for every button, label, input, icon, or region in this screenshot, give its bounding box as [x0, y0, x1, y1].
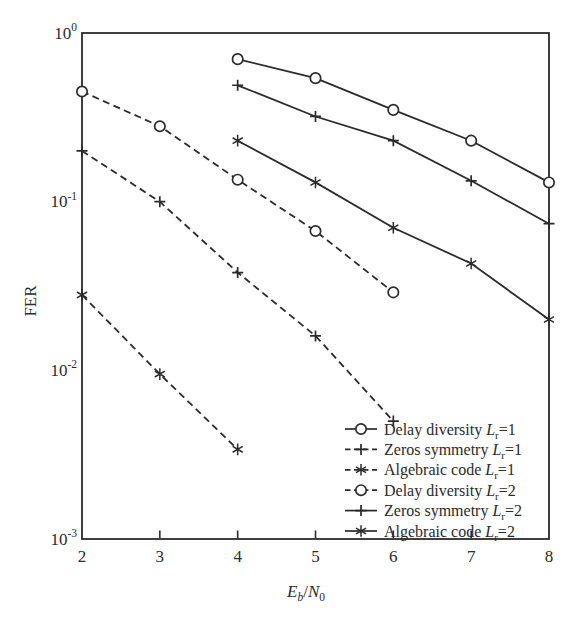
y-tick-label: 10-3 — [50, 527, 77, 549]
figure-page: 234567810010-110-210-3FEREb/N0Delay dive… — [0, 0, 579, 628]
legend-entry-2: Zeros symmetry Lr=1 — [345, 441, 522, 461]
circle-marker — [310, 226, 320, 236]
y-tick-label: 10-1 — [50, 190, 77, 212]
plus-marker — [232, 80, 243, 91]
asterisk-marker — [233, 135, 243, 147]
circle-marker — [388, 287, 398, 297]
plus-marker — [544, 218, 555, 229]
series-delay-diversity-lr-2 — [77, 86, 399, 297]
plus-marker — [310, 111, 321, 122]
plus-marker — [356, 505, 367, 516]
legend-entry-5: Zeros symmetry Lr=2 — [345, 502, 522, 522]
x-tick-label: 5 — [311, 547, 320, 566]
asterisk-marker — [388, 222, 398, 234]
x-tick-label: 3 — [156, 547, 165, 566]
circle-marker — [155, 121, 165, 131]
plus-marker — [232, 267, 243, 278]
circle-marker — [388, 105, 398, 115]
legend-label: Zeros symmetry Lr=2 — [384, 502, 522, 522]
x-axis-label: Eb/N0 — [286, 582, 325, 603]
x-tick-label: 4 — [233, 547, 242, 566]
legend-label: Delay diversity Lr=2 — [384, 482, 516, 502]
plus-marker — [388, 135, 399, 146]
legend-label: Delay diversity Lr=1 — [384, 421, 516, 441]
plus-marker — [77, 145, 88, 156]
circle-marker — [356, 485, 366, 495]
circle-marker — [356, 424, 366, 434]
y-axis-label: FER — [21, 285, 40, 317]
circle-marker — [232, 54, 242, 64]
series-line — [82, 92, 393, 293]
circle-marker — [310, 73, 320, 83]
series-line — [238, 59, 549, 182]
y-tick-label: 100 — [54, 21, 77, 43]
circle-marker — [77, 86, 87, 96]
plus-marker — [466, 175, 477, 186]
asterisk-marker — [310, 177, 320, 189]
legend-label: Algebraic code Lr=1 — [384, 461, 515, 481]
asterisk-marker — [544, 314, 554, 326]
circle-marker — [544, 177, 554, 187]
legend-label: Zeros symmetry Lr=1 — [384, 441, 522, 461]
series-algebraic-code-lr-1 — [77, 289, 243, 455]
y-tick-label: 10-2 — [50, 358, 77, 380]
series-zeros-symmetry-lr-1 — [77, 145, 399, 426]
x-tick-label: 7 — [467, 547, 476, 566]
legend-entry-4: Delay diversity Lr=2 — [345, 482, 516, 502]
x-tick-label: 2 — [78, 547, 87, 566]
circle-marker — [466, 135, 476, 145]
series-delay-diversity-lr-1 — [232, 54, 554, 188]
plus-marker — [356, 444, 367, 455]
asterisk-marker — [466, 258, 476, 270]
series-zeros-symmetry-lr-2 — [232, 80, 554, 229]
x-tick-label: 8 — [545, 547, 554, 566]
fer-vs-ebn0-chart: 234567810010-110-210-3FEREb/N0Delay dive… — [0, 0, 579, 628]
legend-entry-1: Delay diversity Lr=1 — [345, 421, 516, 441]
series-line — [82, 151, 393, 421]
legend-entry-3: Algebraic code Lr=1 — [345, 461, 515, 481]
circle-marker — [232, 174, 242, 184]
legend: Delay diversity Lr=1Zeros symmetry Lr=1A… — [345, 421, 522, 543]
x-tick-label: 6 — [389, 547, 398, 566]
